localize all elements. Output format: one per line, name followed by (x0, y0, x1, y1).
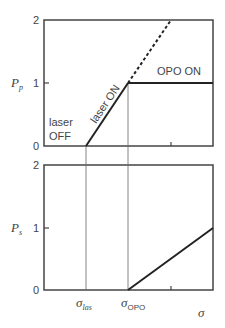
sigma-opo-label: σOPO (121, 296, 145, 312)
sigma-opo-sub: OPO (127, 303, 145, 312)
bottom-ylabel: Ps (11, 221, 22, 237)
pp-sub: p (19, 83, 23, 92)
top-ytick-label-2: 2 (33, 15, 39, 26)
top-ytick-label-0: 0 (33, 141, 39, 152)
opo-on-label: OPO ON (157, 66, 201, 77)
bottom-ytick-label-1: 1 (33, 223, 39, 234)
top-ylabel: Pp (11, 76, 23, 92)
sigma-las-label: σlas (76, 296, 92, 312)
bottom-ytick-label-0: 0 (33, 285, 39, 296)
top-ytick-label-1: 1 (33, 78, 39, 89)
bottom-panel-frame (44, 165, 213, 290)
signal-line (128, 228, 213, 290)
ps-main: P (11, 220, 19, 235)
laser-off-label-line2: OFF (49, 131, 71, 142)
sigma-las-sub: las (82, 303, 91, 312)
pp-main: P (11, 75, 19, 90)
laser-off-label-line1: laser (49, 117, 73, 128)
ps-sub: s (19, 228, 22, 237)
bottom-ytick-label-2: 2 (33, 160, 39, 171)
x-axis-label: σ (198, 306, 204, 319)
